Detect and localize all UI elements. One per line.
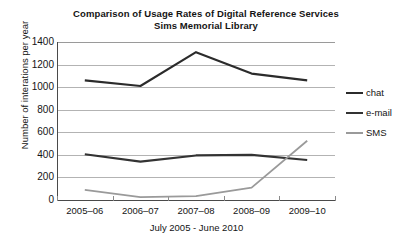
legend-item-chat[interactable]: chat <box>346 83 410 103</box>
legend-item-e-mail[interactable]: e-mail <box>346 103 410 123</box>
legend-label: chat <box>366 88 384 98</box>
legend-swatch-chat <box>346 92 363 94</box>
chart-legend: chate-mailSMS <box>346 83 410 143</box>
y-tick-label: 400 <box>16 150 54 160</box>
chart-title-line1: Comparison of Usage Rates of Digital Ref… <box>73 8 339 19</box>
legend-swatch-e-mail <box>346 112 363 114</box>
legend-label: e-mail <box>366 108 392 118</box>
y-axis-ticks: 0200400600800100012001400 <box>12 42 54 200</box>
series-line-SMS <box>85 141 307 197</box>
chart-title-line2: Sims Memorial Library <box>0 20 412 32</box>
x-axis-end-tick <box>335 196 336 201</box>
x-tick-label: 2009–10 <box>279 205 335 216</box>
chart-container: Comparison of Usage Rates of Digital Ref… <box>0 0 412 244</box>
y-tick-label: 1400 <box>16 37 54 47</box>
y-tick-label: 0 <box>16 195 54 205</box>
legend-label: SMS <box>366 128 387 138</box>
series-line-e-mail <box>85 154 307 161</box>
chart-title: Comparison of Usage Rates of Digital Ref… <box>0 8 412 32</box>
legend-item-SMS[interactable]: SMS <box>346 123 410 143</box>
y-tick-label: 1200 <box>16 60 54 70</box>
series-line-chat <box>85 52 307 86</box>
x-tick-label: 2005–06 <box>57 205 113 216</box>
y-tick-label: 600 <box>16 127 54 137</box>
y-tick-label: 1000 <box>16 82 54 92</box>
legend-swatch-SMS <box>346 132 363 134</box>
x-axis-title: July 2005 - June 2010 <box>57 222 336 233</box>
x-tick-label: 2007–08 <box>168 205 224 216</box>
series-lines <box>57 42 335 200</box>
x-tick-label: 2008–09 <box>224 205 280 216</box>
y-tick-label: 800 <box>16 105 54 115</box>
x-axis-line <box>57 200 336 201</box>
y-tick-label: 200 <box>16 172 54 182</box>
x-tick-label: 2006–07 <box>113 205 169 216</box>
